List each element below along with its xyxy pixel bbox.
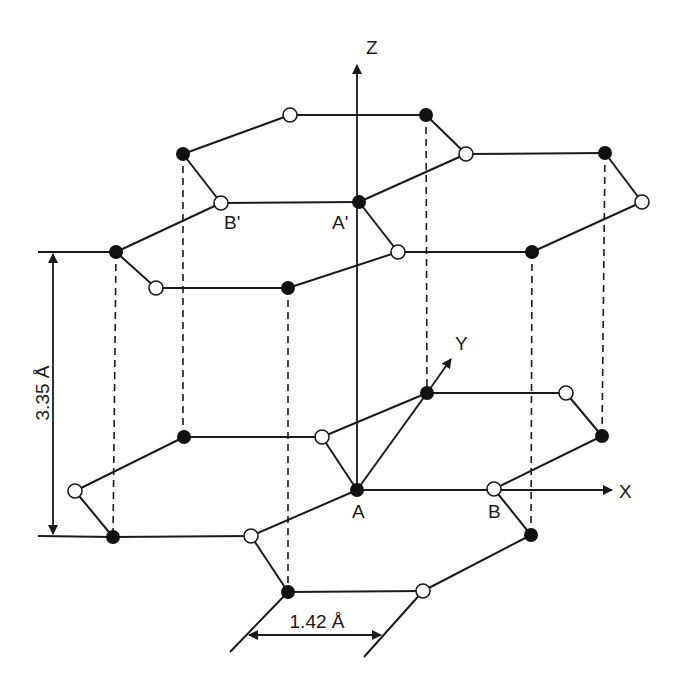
a-prime-label: A': [332, 212, 348, 233]
atom-filled: [598, 146, 612, 160]
lower-layer-atoms: [68, 386, 609, 599]
z-axis-label: Z: [366, 37, 378, 58]
interlayer-distance-label: 3.35 Å: [32, 365, 53, 420]
bond-length-label: 1.42 Å: [290, 611, 345, 632]
atom-filled: [525, 245, 539, 259]
b-label: B: [488, 501, 501, 522]
atom-b-prime: [214, 196, 228, 210]
atom-filled: [176, 147, 190, 161]
upper-layer-atoms: [109, 108, 649, 295]
atom-filled: [595, 429, 609, 443]
atom-filled: [177, 430, 191, 444]
atom-filled: [109, 245, 123, 259]
atom-open: [315, 430, 329, 444]
atom-open: [391, 245, 405, 259]
lower-layer-bonds: [75, 393, 602, 592]
upper-layer-bonds: [116, 115, 642, 288]
atom-open: [559, 386, 573, 400]
atom-open: [416, 584, 430, 598]
a-label: A: [352, 501, 365, 522]
graphite-structure-diagram: 3.35 Å 1.42 Å: [0, 0, 675, 684]
atom-filled: [419, 108, 433, 122]
atom-open: [149, 281, 163, 295]
atom-filled: [281, 585, 295, 599]
atom-filled: [420, 386, 434, 400]
atom-a: [350, 483, 364, 497]
atom-filled: [524, 528, 538, 542]
atom-open: [244, 529, 258, 543]
atom-open: [459, 147, 473, 161]
atom-b: [487, 482, 501, 496]
atom-a-prime: [352, 195, 366, 209]
y-axis-label: Y: [455, 333, 468, 354]
atom-filled: [106, 530, 120, 544]
x-axis-label: X: [619, 481, 632, 502]
atom-open: [68, 484, 82, 498]
bond-length-dimension: 1.42 Å: [230, 591, 423, 657]
atom-open: [283, 108, 297, 122]
b-prime-label: B': [224, 212, 240, 233]
atom-open: [635, 195, 649, 209]
atom-filled: [281, 281, 295, 295]
